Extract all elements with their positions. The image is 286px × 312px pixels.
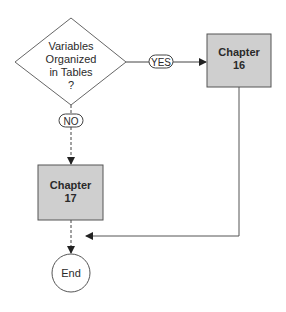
yes-label: YES	[151, 57, 171, 68]
no-label: NO	[64, 116, 79, 127]
end-node: End	[52, 254, 90, 292]
end-label: End	[61, 267, 81, 279]
chapter-16-line-2: 16	[233, 59, 245, 71]
chapter-17-line-1: Chapter	[50, 179, 92, 191]
chapter-16-return-connector	[86, 87, 239, 236]
yes-connector: YES	[126, 55, 206, 68]
no-connector: NO	[59, 105, 83, 164]
decision-line-1: Variables	[48, 40, 94, 52]
decision-node: Variables Organized in Tables ?	[15, 18, 126, 105]
decision-line-3: in Tables	[49, 66, 93, 78]
flowchart: Variables Organized in Tables ? YES Chap…	[0, 0, 286, 312]
chapter-17-box: Chapter 17	[38, 165, 103, 220]
chapter-16-box: Chapter 16	[207, 34, 271, 87]
chapter-17-line-2: 17	[64, 192, 76, 204]
decision-line-4: ?	[68, 79, 74, 91]
decision-line-2: Organized	[46, 53, 97, 65]
chapter-16-line-1: Chapter	[218, 46, 260, 58]
